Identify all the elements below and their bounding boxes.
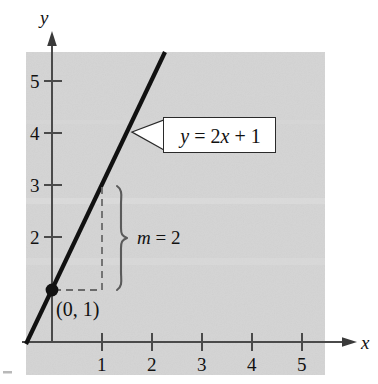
line-graph-figure: y = 2x + 1 y x 5 4 3 2 1 2 3 4 5 (0, 1) …	[0, 0, 378, 384]
y-tick-label-3: 3	[30, 176, 40, 195]
y-tick-label-5: 5	[30, 72, 40, 91]
x-tick-label-2: 2	[147, 355, 157, 374]
y-intercept-point-marker	[46, 284, 59, 297]
x-tick-label-5: 5	[297, 355, 307, 374]
plot-background-texture	[26, 52, 325, 375]
scan-artifact-mark	[3, 371, 12, 374]
y-axis-arrowhead	[47, 31, 57, 46]
x-axis-label: x	[361, 333, 369, 352]
equation-label: y = 2x + 1	[180, 125, 260, 148]
slope-label: m = 2	[137, 228, 180, 247]
y-tick-label-4: 4	[30, 124, 40, 143]
x-tick-label-4: 4	[247, 355, 257, 374]
y-intercept-point-label: (0, 1)	[56, 299, 99, 319]
x-tick-label-3: 3	[197, 355, 207, 374]
slope-m-symbol: m	[137, 227, 151, 248]
equation-callout-text: y = 2x + 1	[164, 118, 277, 154]
slope-value: = 2	[151, 227, 181, 248]
graph-canvas	[0, 0, 378, 384]
equation-middle: = 2	[189, 125, 220, 147]
y-tick-label-2: 2	[30, 228, 40, 247]
scan-band-1	[26, 198, 325, 204]
equation-tail: + 1	[229, 125, 260, 147]
equation-callout-box: y = 2x + 1	[163, 117, 276, 153]
x-tick-label-1: 1	[97, 355, 107, 374]
y-axis-label: y	[40, 8, 48, 27]
x-axis-arrowhead	[342, 337, 357, 347]
equation-y-symbol: y	[180, 125, 189, 147]
scan-band-2	[26, 258, 325, 265]
